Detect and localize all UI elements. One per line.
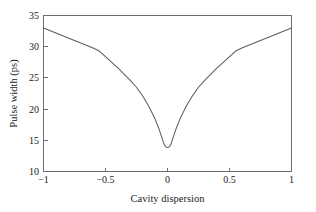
y-tick-label: 35: [29, 10, 39, 21]
y-tick-label: 30: [29, 41, 39, 52]
x-axis-title: Cavity dispersion: [131, 193, 206, 204]
x-tick-marks: [44, 168, 292, 172]
x-tick-label: −0.5: [96, 174, 114, 185]
y-tick-label: 20: [29, 104, 39, 115]
y-tick-labels: 10 15 20 25 30 35: [29, 10, 39, 177]
y-tick-label: 25: [29, 72, 39, 83]
y-tick-label: 15: [29, 135, 39, 146]
x-tick-label: 0: [165, 174, 170, 185]
x-tick-labels: −1 −0.5 0 0.5 1: [38, 174, 294, 185]
chart-canvas: 10 15 20 25 30 35 −1 −0.5 0 0.5 1 Cavity…: [0, 0, 316, 212]
plot-frame: [44, 16, 292, 172]
x-tick-label: 1: [289, 174, 294, 185]
y-tick-marks: [44, 16, 48, 172]
x-tick-label: −1: [38, 174, 49, 185]
x-tick-label: 0.5: [223, 174, 236, 185]
chart-figure: 10 15 20 25 30 35 −1 −0.5 0 0.5 1 Cavity…: [0, 0, 316, 212]
y-axis-title: Pulse width (ps): [8, 59, 20, 128]
data-series-pulse-width: [44, 28, 292, 148]
